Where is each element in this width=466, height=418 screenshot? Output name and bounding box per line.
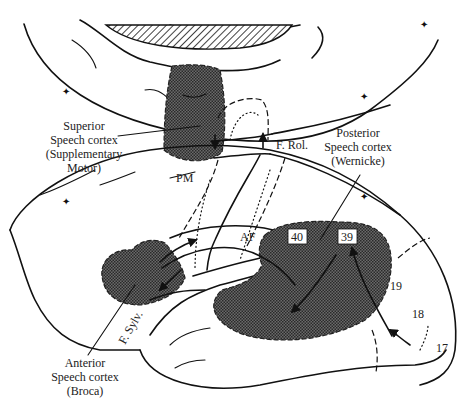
- area-39: 39: [341, 230, 353, 244]
- label-posterior-line1: Posterior: [336, 126, 379, 140]
- svg-text:✦: ✦: [62, 86, 70, 97]
- label-superior-line2: Speech cortex: [50, 133, 118, 147]
- area-17: 17: [436, 341, 448, 355]
- label-anterior-line2: Speech cortex: [51, 370, 119, 384]
- corpus-callosum-hatch: [106, 25, 292, 49]
- label-superior-line3: (Supplementary: [46, 147, 123, 161]
- svg-text:✦: ✦: [420, 19, 428, 30]
- brain-speech-areas-diagram: ✦ ✦ ✦ ✦ ✦ Superior Speech cort: [0, 0, 466, 418]
- label-f-sylv: F. Sylv.: [115, 308, 145, 346]
- area-18: 18: [412, 307, 424, 321]
- label-posterior-line2: Speech cortex: [324, 140, 392, 154]
- area-19: 19: [390, 279, 402, 293]
- area-40: 40: [291, 230, 303, 244]
- label-anterior-line3: (Broca): [67, 384, 104, 398]
- svg-text:✦: ✦: [360, 91, 368, 102]
- label-pm: PM: [176, 171, 194, 185]
- svg-text:✦: ✦: [360, 191, 368, 202]
- label-superior-line1: Superior: [63, 119, 104, 133]
- label-f-rol: F. Rol.: [276, 138, 308, 152]
- svg-text:✦: ✦: [62, 196, 70, 207]
- label-superior-line4: Motor): [67, 161, 101, 175]
- label-af: AF: [240, 230, 256, 244]
- label-anterior-line1: Anterior: [65, 356, 106, 370]
- label-posterior-line3: (Wernicke): [331, 154, 385, 168]
- anterior-speech-cortex-area: [102, 240, 185, 305]
